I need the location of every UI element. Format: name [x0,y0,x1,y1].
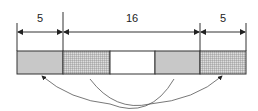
arrow-to-right-end [90,76,222,106]
label-right: 5 [213,12,233,24]
label-middle: 16 [122,12,142,24]
segment-middle-center [110,51,155,74]
segment-left-end [17,51,63,74]
segment-middle-right [155,51,200,74]
segment-middle-left [63,51,110,74]
label-left: 5 [30,12,50,24]
segment-right-end [200,51,246,74]
